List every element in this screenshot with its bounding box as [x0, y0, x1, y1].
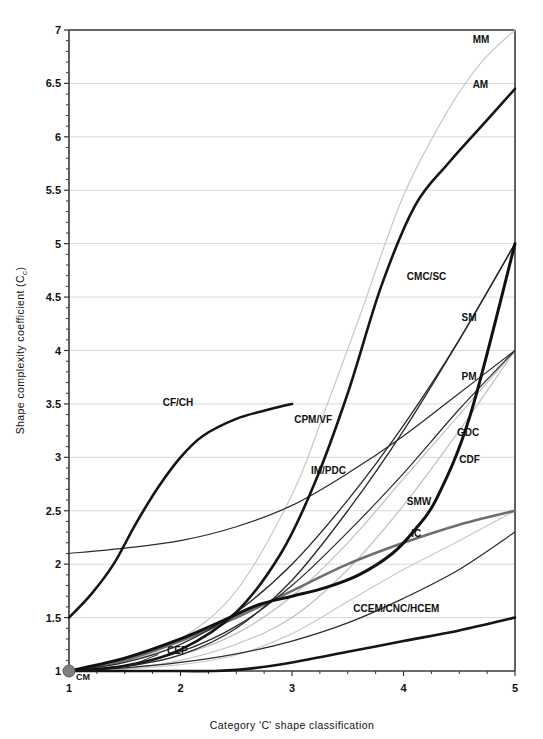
y-axis-title-main: Shape complexity coefficient (C — [14, 275, 26, 434]
series-label-sm: SM — [461, 312, 476, 323]
series-label-gdc: GDC — [457, 427, 479, 438]
series-label-cf-ch: CF/CH — [163, 397, 194, 408]
series-label-cep: CEP — [167, 645, 188, 656]
series-label-cdf: CDF — [459, 454, 480, 465]
y-tick-label: 2 — [55, 558, 61, 570]
x-tick-label: 1 — [66, 682, 72, 694]
series-label-pm: PM — [461, 371, 476, 382]
y-tick-label: 1.5 — [46, 612, 61, 624]
y-tick-label: 6.5 — [46, 77, 61, 89]
y-tick-label: 5 — [55, 238, 61, 250]
y-axis-title-tail: ) — [14, 267, 26, 271]
series-line — [69, 532, 515, 671]
series-label-cpm-vf: CPM/VF — [294, 414, 332, 425]
y-tick-label: 5.5 — [46, 184, 61, 196]
y-tick-label: 3 — [55, 451, 61, 463]
x-tick-label: 5 — [512, 682, 518, 694]
series-label-ic: IC — [411, 528, 421, 539]
cm-marker-dot — [63, 665, 75, 677]
axis-ticks — [64, 30, 515, 676]
series-label-am: AM — [473, 79, 489, 90]
y-axis-title: Shape complexity coefficient (Cc) — [14, 267, 29, 435]
x-tick-label: 4 — [400, 682, 407, 694]
y-tick-label: 4 — [55, 345, 62, 357]
series-label-cmc-sc: CMC/SC — [407, 271, 446, 282]
x-axis-title: Category 'C' shape classification — [210, 719, 374, 731]
grid-lines — [69, 30, 515, 618]
x-tick-label: 3 — [289, 682, 295, 694]
y-tick-label: 1 — [55, 665, 61, 677]
series-label-smw: SMW — [407, 496, 432, 507]
series-line — [69, 89, 515, 671]
axis-titles: Category 'C' shape classificationShape c… — [14, 267, 374, 731]
y-tick-label: 4.5 — [46, 291, 61, 303]
x-tick-label: 2 — [177, 682, 183, 694]
series-label-im-pdc: IM/PDC — [311, 465, 346, 476]
y-tick-label: 6 — [55, 131, 61, 143]
y-tick-label: 3.5 — [46, 398, 61, 410]
y-tick-label: 2.5 — [46, 505, 61, 517]
cm-marker-label: CM — [76, 672, 90, 682]
series-labels: MMAMCF/CHCMC/SCSMCPM/VFPMGDCCDFIM/PDCSMW… — [163, 34, 490, 656]
series-label-ccem-cnc-hcem: CCEM/CNC/HCEM — [353, 603, 439, 614]
series-label-mm: MM — [473, 34, 490, 45]
y-tick-label: 7 — [55, 24, 61, 36]
shape-complexity-chart: CM MMAMCF/CHCMC/SCSMCPM/VFPMGDCCDFIM/PDC… — [0, 0, 543, 739]
chart-canvas: CM MMAMCF/CHCMC/SCSMCPM/VFPMGDCCDFIM/PDC… — [0, 0, 543, 739]
